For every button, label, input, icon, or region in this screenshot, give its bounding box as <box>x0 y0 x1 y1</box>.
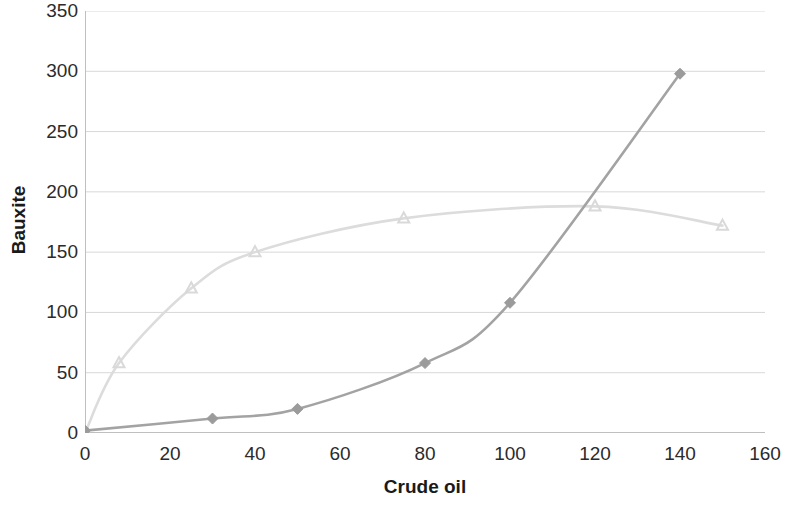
x-tick-label: 80 <box>395 444 455 463</box>
y-tick-label: 100 <box>34 302 78 321</box>
x-axis-title: Crude oil <box>85 476 765 498</box>
y-tick-label: 300 <box>34 61 78 80</box>
data-point-marker <box>292 403 303 414</box>
x-tick-label: 20 <box>140 444 200 463</box>
data-series-layer <box>85 11 765 433</box>
x-tick-label: 120 <box>565 444 625 463</box>
x-tick-label: 60 <box>310 444 370 463</box>
x-tick-label: 100 <box>480 444 540 463</box>
series-line <box>85 206 723 433</box>
x-tick-label: 160 <box>735 444 785 463</box>
x-tick-label: 140 <box>650 444 710 463</box>
y-tick-label: 150 <box>34 242 78 261</box>
y-axis-tick-labels: 050100150200250300350 <box>26 0 78 440</box>
series-line <box>85 74 680 431</box>
x-axis-title-label: Crude oil <box>384 476 466 497</box>
data-point-marker <box>420 358 431 369</box>
plot-area <box>85 11 765 433</box>
y-tick-label: 350 <box>34 1 78 20</box>
y-tick-label: 200 <box>34 182 78 201</box>
y-tick-label: 0 <box>34 423 78 442</box>
x-tick-label: 40 <box>225 444 285 463</box>
x-axis-tick-labels: 020406080100120140160 <box>0 444 780 474</box>
y-tick-label: 250 <box>34 122 78 141</box>
y-tick-label: 50 <box>34 363 78 382</box>
series-triangle <box>85 200 728 433</box>
x-tick-label: 0 <box>55 444 115 463</box>
data-point-marker <box>207 413 218 424</box>
series-diamond <box>85 68 686 433</box>
